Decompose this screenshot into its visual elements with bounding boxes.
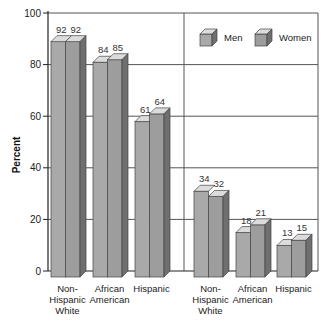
y-axis-label: Percent	[11, 136, 22, 173]
category-label: Non-	[200, 283, 221, 294]
legend-label: Men	[224, 32, 242, 43]
category-labels: Non-HispanicWhiteAfricanAmericanHispanic…	[49, 283, 312, 316]
value-label: 34	[199, 173, 210, 184]
category-label: American	[232, 294, 272, 305]
y-tick-label: 40	[30, 162, 42, 173]
y-tick-label: 20	[30, 214, 42, 225]
y-tick-label: 100	[24, 8, 41, 19]
bar-side-face	[306, 234, 312, 277]
bar-women	[108, 60, 123, 277]
legend-label: Women	[279, 32, 312, 43]
value-label: 32	[213, 178, 224, 189]
bar-side-face	[265, 219, 271, 277]
bars	[51, 36, 312, 277]
legend: MenWomen	[200, 29, 312, 46]
y-tick-label: 60	[30, 111, 42, 122]
bar-women	[292, 240, 307, 277]
bar-men	[236, 233, 251, 277]
value-label: 84	[98, 44, 109, 55]
bar-women	[251, 225, 266, 277]
category-label: Hispanic	[275, 283, 312, 294]
category-label: Hispanic	[49, 294, 86, 305]
bar-side-face	[223, 190, 229, 277]
bar-side-face	[80, 36, 86, 277]
category-label: White	[55, 305, 79, 316]
value-label: 13	[282, 227, 293, 238]
y-tick-label: 80	[30, 59, 42, 70]
bar-men	[277, 245, 292, 277]
bar-side-face	[122, 54, 128, 277]
bar-men	[93, 62, 108, 277]
bar-chart: 020406080100 929284856164343218211315 No…	[0, 0, 328, 325]
bar-men	[194, 191, 209, 277]
value-label: 61	[140, 104, 151, 115]
category-label: African	[238, 283, 268, 294]
legend-swatch	[255, 34, 267, 46]
value-label: 85	[112, 42, 123, 53]
value-label: 92	[70, 24, 81, 35]
bar-top-face	[194, 185, 215, 191]
y-tick-label: 0	[35, 266, 41, 277]
bar-women	[209, 196, 224, 277]
grid-lines	[48, 13, 318, 271]
category-label: Non-	[57, 283, 78, 294]
bar-side-face	[164, 108, 170, 277]
value-label: 92	[56, 24, 67, 35]
category-label: White	[198, 305, 222, 316]
value-label: 18	[241, 215, 252, 226]
value-label: 15	[296, 222, 307, 233]
bar-women	[66, 42, 81, 277]
legend-swatch	[200, 34, 212, 46]
value-label: 64	[154, 96, 165, 107]
bar-men	[135, 122, 150, 277]
category-label: Hispanic	[192, 294, 229, 305]
category-label: African	[95, 283, 125, 294]
bar-men	[51, 42, 66, 277]
y-axis: 020406080100	[24, 8, 48, 277]
category-label: American	[89, 294, 129, 305]
category-label: Hispanic	[133, 283, 170, 294]
bar-women	[150, 114, 165, 277]
value-label: 21	[255, 207, 266, 218]
